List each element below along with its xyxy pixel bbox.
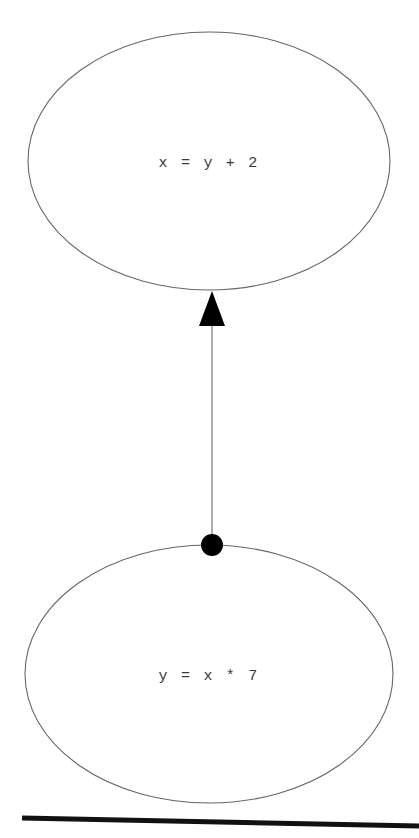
bottom-rule — [22, 818, 419, 826]
graph-svg: x = y + 2 y = x * 7 — [0, 0, 419, 838]
node-bottom-label: y = x * 7 — [159, 668, 260, 685]
edge-source-dot-icon — [201, 534, 223, 556]
edge-arrowhead-icon — [199, 291, 225, 326]
node-top-label: x = y + 2 — [159, 155, 260, 172]
diagram-canvas: x = y + 2 y = x * 7 — [0, 0, 419, 838]
